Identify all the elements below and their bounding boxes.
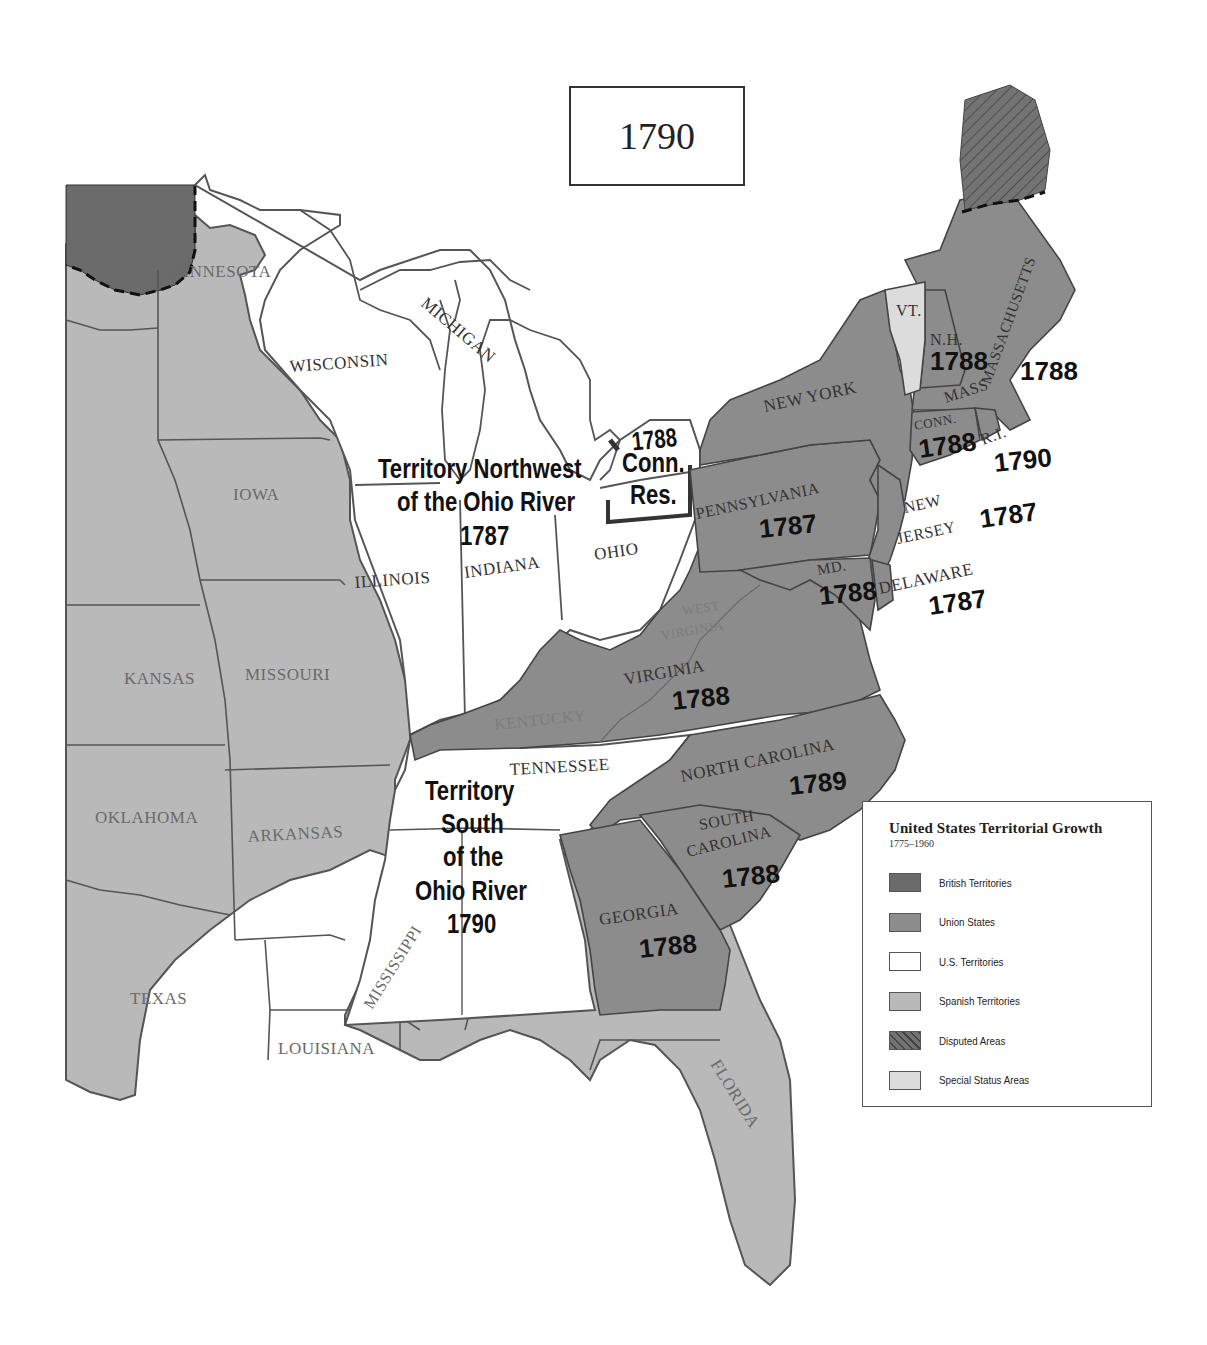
- year-massachusetts: 1788: [1020, 356, 1078, 386]
- year-pennsylvania: 1787: [757, 508, 818, 544]
- conn-reserve-2: Res.: [630, 480, 677, 510]
- label-kansas: KANSAS: [124, 669, 195, 688]
- south-territory-title-1: Territory: [425, 776, 515, 806]
- legend: United States Territorial Growth 1775–19…: [862, 801, 1152, 1107]
- legend-label: British Territories: [939, 877, 1012, 889]
- us-territory-swatch-icon: [889, 952, 921, 971]
- legend-label: U.S. Territories: [939, 956, 1003, 968]
- legend-item-disputed: Disputed Areas: [889, 1021, 1151, 1061]
- label-oklahoma: OKLAHOMA: [95, 808, 198, 827]
- year-delaware: 1787: [927, 583, 988, 621]
- spanish-swatch-icon: [889, 992, 921, 1011]
- british-swatch-icon: [889, 873, 921, 892]
- label-texas: TEXAS: [130, 989, 187, 1008]
- disputed-area: [960, 85, 1050, 210]
- label-vermont: VT.: [896, 302, 922, 319]
- south-territory-title-2: South: [441, 809, 504, 839]
- label-iowa: IOWA: [233, 485, 280, 504]
- year-virginia: 1788: [670, 680, 731, 716]
- legend-label: Union States: [939, 916, 995, 928]
- label-minnesota: MINNESOTA: [168, 262, 271, 281]
- year-new-jersey: 1787: [978, 496, 1039, 534]
- year-north-carolina: 1789: [787, 765, 848, 801]
- northwest-territory-title-1: Territory Northwest: [378, 454, 582, 484]
- northwest-territory-year: 1787: [460, 521, 509, 551]
- south-territory-title-4: Ohio River: [415, 876, 527, 906]
- territorial-map: MINNESOTA WISCONSIN MICHIGAN IOWA ILLINO…: [0, 0, 1207, 1345]
- legend-item-us-territories: U.S. Territories: [889, 942, 1151, 982]
- south-territory-title-3: of the: [443, 842, 503, 872]
- disputed-swatch-icon: [889, 1031, 921, 1050]
- year-maryland: 1788: [817, 575, 878, 611]
- label-louisiana: LOUISIANA: [278, 1039, 375, 1058]
- legend-subtitle: 1775–1960: [889, 838, 1151, 849]
- label-new-jersey-1: NEW: [902, 491, 943, 516]
- legend-label: Special Status Areas: [939, 1074, 1029, 1086]
- label-missouri: MISSOURI: [245, 665, 330, 684]
- map-year: 1790: [619, 114, 695, 158]
- year-box: 1790: [569, 86, 745, 186]
- year-new-hampshire: 1788: [930, 346, 988, 376]
- special-swatch-icon: [889, 1071, 921, 1090]
- south-territory-year: 1790: [447, 909, 496, 939]
- legend-label: Disputed Areas: [939, 1035, 1005, 1047]
- legend-label: Spanish Territories: [939, 995, 1020, 1007]
- northwest-territory-title-2: of the Ohio River: [397, 487, 576, 517]
- label-new-jersey-2: JERSEY: [895, 518, 957, 547]
- year-rhode-island: 1790: [992, 442, 1053, 478]
- legend-item-union: Union States: [889, 903, 1151, 943]
- union-swatch-icon: [889, 913, 921, 932]
- year-south-carolina: 1788: [720, 858, 781, 894]
- legend-item-special: Special Status Areas: [889, 1061, 1151, 1101]
- legend-item-spanish: Spanish Territories: [889, 982, 1151, 1022]
- legend-item-british: British Territories: [889, 863, 1151, 903]
- legend-title: United States Territorial Growth: [889, 820, 1151, 837]
- year-georgia: 1788: [637, 928, 698, 964]
- conn-reserve-1: Conn.: [622, 448, 685, 478]
